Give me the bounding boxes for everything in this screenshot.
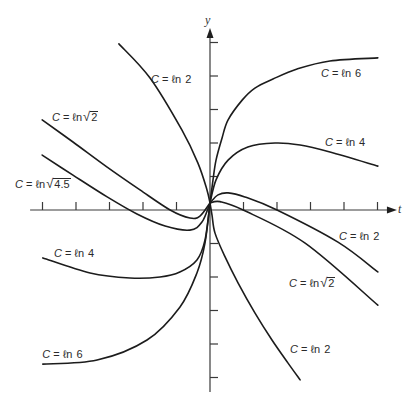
curve-label: C = ℓn 6	[321, 66, 361, 80]
label-variable: C	[321, 67, 329, 79]
curve-label: C = ℓn 2	[151, 72, 191, 86]
label-argument: 6	[355, 67, 361, 79]
solution-curve	[42, 155, 210, 230]
label-variable: C	[151, 73, 159, 85]
label-argument: 4	[88, 247, 94, 259]
curve-label: C = ℓn 4	[54, 246, 94, 260]
solution-curve	[43, 203, 210, 364]
curve-label: C = ℓn 2	[339, 229, 379, 243]
plot-area	[0, 0, 416, 403]
label-argument: 4.5	[53, 178, 70, 190]
label-equals: = ℓn	[333, 136, 358, 148]
label-equals: = ℓn	[347, 230, 372, 242]
label-equals: = ℓn	[60, 111, 82, 123]
curve-label: C = ℓn√4.5	[15, 177, 71, 191]
label-variable: C	[52, 111, 60, 123]
t-axis-arrow-icon	[387, 207, 397, 214]
t-axis-label: t	[398, 202, 401, 217]
sqrt-icon: √	[320, 275, 327, 290]
y-axis-label: y	[205, 13, 210, 28]
label-equals: = ℓn	[159, 73, 184, 85]
label-argument: 4	[359, 136, 365, 148]
label-argument: 2	[327, 277, 335, 289]
label-argument: 2	[185, 73, 191, 85]
label-variable: C	[325, 136, 333, 148]
curve-label: C = ℓn 4	[325, 135, 365, 149]
solution-curves-figure: t y C = ℓn 2 C = ℓn 6 C = ℓn 4 C = ℓn√2 …	[0, 0, 416, 403]
label-argument: 2	[324, 343, 330, 355]
label-variable: C	[42, 348, 50, 360]
label-equals: = ℓn	[297, 277, 319, 289]
solution-curve	[119, 44, 210, 203]
label-variable: C	[290, 343, 298, 355]
curve-label: C = ℓn√2	[289, 276, 335, 290]
y-axis-arrow-icon	[207, 28, 214, 38]
label-argument: 2	[373, 230, 379, 242]
label-variable: C	[339, 230, 347, 242]
curve-label: C = ℓn 2	[290, 342, 330, 356]
curve-label: C = ℓn 6	[42, 347, 82, 361]
curve-label: C = ℓn√2	[52, 110, 98, 124]
label-argument: 2	[90, 111, 98, 123]
label-argument: 6	[76, 348, 82, 360]
label-equals: = ℓn	[23, 178, 45, 190]
label-equals: = ℓn	[62, 247, 87, 259]
sqrt-icon: √	[46, 176, 53, 191]
sqrt-icon: √	[83, 109, 90, 124]
solution-curve	[210, 203, 300, 380]
solution-curve	[43, 203, 210, 278]
label-equals: = ℓn	[329, 67, 354, 79]
label-variable: C	[289, 277, 297, 289]
label-variable: C	[54, 247, 62, 259]
label-equals: = ℓn	[50, 348, 75, 360]
label-equals: = ℓn	[298, 343, 323, 355]
label-variable: C	[15, 178, 23, 190]
